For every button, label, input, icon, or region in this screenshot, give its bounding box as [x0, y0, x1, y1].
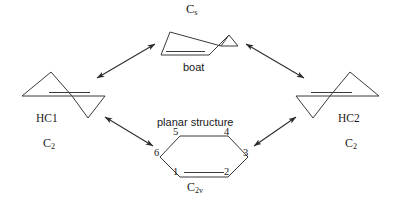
arrow-hc2-planar [254, 117, 296, 146]
ring-number-1: 1 [173, 167, 178, 178]
ring-number-2: 2 [224, 167, 229, 178]
planar-structure-name-label: planar structure [157, 117, 233, 128]
boat-point-group-label: Cs [186, 3, 198, 16]
arrow-boat-hc1 [97, 44, 155, 78]
boat-name-label: boat [183, 62, 204, 73]
half-chair-1-point-group-subscript: 2 [51, 142, 55, 151]
half-chair-1-point-group-label: C2 [43, 137, 55, 151]
half-chair-1-name-label: HC1 [36, 113, 58, 125]
planar-point-group-label: C2v [187, 181, 203, 195]
half-chair-2-point-group-subscript: 2 [353, 142, 357, 151]
ring-number-4: 4 [224, 127, 229, 138]
boat-conformer-icon [161, 32, 238, 55]
conformer-interconversion-diagram: Cs boat HC1 C2 HC2 C2 planar structure C… [0, 0, 401, 199]
half-chair-1-point-group-letter: C [43, 136, 51, 150]
arrow-hc1-planar [105, 117, 153, 146]
ring-number-5: 5 [173, 127, 178, 138]
ring-number-6: 6 [154, 148, 159, 159]
ring-number-3: 3 [243, 148, 248, 159]
half-chair-2-point-group-label: C2 [345, 137, 357, 151]
half-chair-2-name-label: HC2 [338, 113, 360, 125]
arrow-boat-hc2 [246, 44, 304, 78]
planar-point-group-subscript: 2v [195, 186, 203, 195]
planar-point-group-letter: C [187, 180, 195, 194]
half-chair-1-icon [22, 72, 105, 118]
boat-point-group-subscript: s [194, 7, 197, 17]
diagram-canvas [0, 0, 401, 199]
half-chair-2-point-group-letter: C [345, 136, 353, 150]
